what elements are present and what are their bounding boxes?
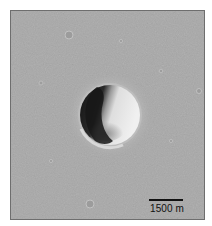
small-crater — [65, 31, 73, 39]
crater-image: 1500 m — [10, 10, 205, 220]
small-crater — [197, 89, 202, 94]
small-crater — [86, 200, 94, 208]
small-crater — [169, 139, 172, 142]
scale-bar-label: 1500 m — [150, 203, 184, 214]
small-crater — [159, 69, 163, 73]
scale-bar — [149, 199, 183, 201]
small-crater — [119, 39, 122, 42]
small-crater — [39, 81, 43, 85]
crater-scene — [11, 11, 205, 220]
small-crater — [49, 159, 52, 162]
